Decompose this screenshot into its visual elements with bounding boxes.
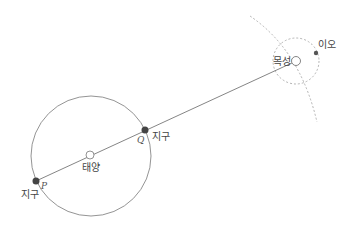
jupiter: [292, 57, 301, 66]
earth-q-label: 지구: [152, 131, 170, 142]
sun: [86, 151, 94, 159]
io-label: 이오: [318, 39, 336, 50]
line-of-sight: [36, 62, 294, 181]
jupiter-orbit-arc: [250, 16, 317, 122]
sun-label: 태양: [82, 162, 100, 173]
earth-p: [33, 178, 40, 185]
jupiter-label: 목성: [273, 56, 291, 67]
point-p-label: P: [40, 181, 48, 191]
earth-p-label: 지구: [21, 189, 39, 200]
io: [314, 51, 318, 55]
orbit-diagram: 태양 지구 P 지구 Q 목성 이오: [0, 0, 356, 234]
point-q-label: Q: [137, 135, 145, 145]
earth-q: [142, 127, 149, 134]
